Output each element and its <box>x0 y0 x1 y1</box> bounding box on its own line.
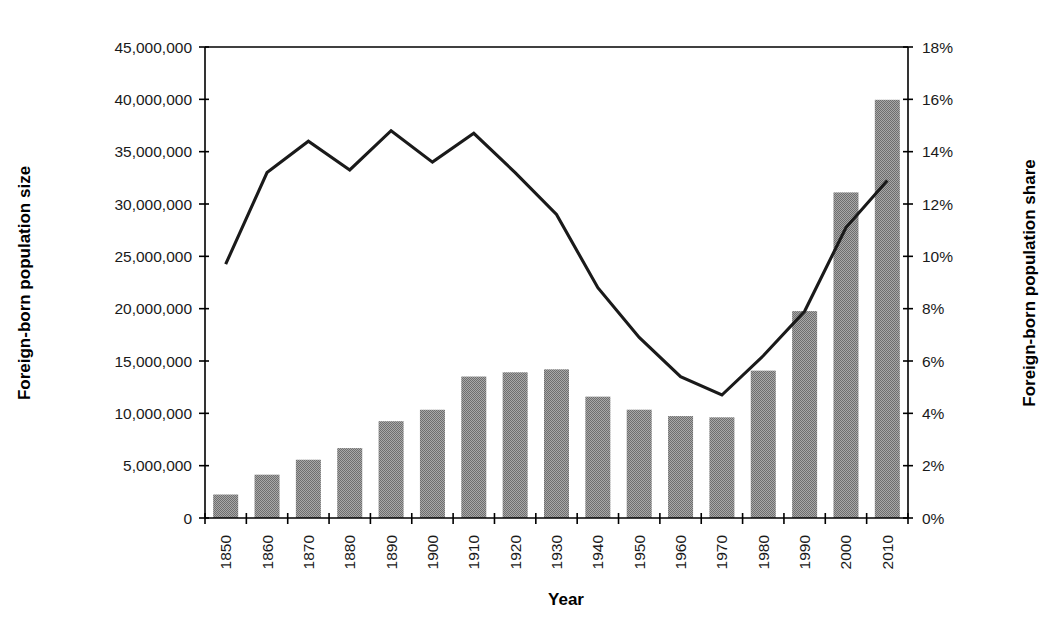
left-tick-label: 35,000,000 <box>114 143 192 160</box>
share-line <box>226 131 888 395</box>
right-tick-label: 4% <box>922 405 945 422</box>
bar-1980 <box>751 371 776 518</box>
right-tick-label: 14% <box>922 143 953 160</box>
bar-1880 <box>337 448 362 518</box>
bar-1920 <box>503 372 528 518</box>
x-axis-tick-labels: 1850186018701880189019001910192019301940… <box>217 535 896 570</box>
x-tick-label-2010: 2010 <box>879 535 896 570</box>
left-tick-label: 30,000,000 <box>114 196 192 213</box>
x-tick-label-2000: 2000 <box>837 535 854 570</box>
x-tick-label-1990: 1990 <box>796 535 813 570</box>
bar-1970 <box>709 417 734 518</box>
x-tick-label-1920: 1920 <box>507 535 524 570</box>
line-series <box>226 131 888 395</box>
bar-1850 <box>213 495 238 518</box>
x-tick-label-1910: 1910 <box>465 535 482 570</box>
right-tick-label: 16% <box>922 91 953 108</box>
left-tick-label: 20,000,000 <box>114 300 192 317</box>
right-tick-label: 18% <box>922 39 953 56</box>
bar-2010 <box>875 100 900 518</box>
x-tick-label-1960: 1960 <box>672 535 689 570</box>
right-tick-label: 8% <box>922 300 945 317</box>
left-tick-label: 0 <box>183 510 192 527</box>
right-tick-label: 10% <box>922 248 953 265</box>
x-tick-label-1880: 1880 <box>341 535 358 570</box>
x-tick-label-1850: 1850 <box>217 535 234 570</box>
left-axis-ticks: 05,000,00010,000,00015,000,00020,000,000… <box>114 39 209 527</box>
bar-1890 <box>379 421 404 518</box>
bar-1990 <box>792 311 817 518</box>
bar-2000 <box>833 192 858 518</box>
left-tick-label: 25,000,000 <box>114 248 192 265</box>
bar-1910 <box>461 377 486 518</box>
bar-1940 <box>585 397 610 518</box>
dual-axis-chart: 05,000,00010,000,00015,000,00020,000,000… <box>0 0 1061 626</box>
left-tick-label: 40,000,000 <box>114 91 192 108</box>
bar-1860 <box>255 475 280 518</box>
x-tick-label-1970: 1970 <box>713 535 730 570</box>
bar-1900 <box>420 410 445 518</box>
left-tick-label: 10,000,000 <box>114 405 192 422</box>
bar-1950 <box>627 410 652 518</box>
y-axis-title: Foreign-born population size <box>15 166 34 400</box>
chart-container: 05,000,00010,000,00015,000,00020,000,000… <box>0 0 1061 626</box>
left-tick-label: 45,000,000 <box>114 39 192 56</box>
bar-series <box>213 100 900 518</box>
right-tick-label: 6% <box>922 353 945 370</box>
x-tick-label-1890: 1890 <box>383 535 400 570</box>
right-tick-label: 0% <box>922 510 945 527</box>
y2-axis-title: Foreign-born population share <box>1020 159 1039 406</box>
bar-1930 <box>544 369 569 518</box>
x-tick-label-1870: 1870 <box>300 535 317 570</box>
x-tick-label-1860: 1860 <box>259 535 276 570</box>
x-tick-label-1930: 1930 <box>548 535 565 570</box>
bar-1870 <box>296 460 321 518</box>
x-tick-label-1900: 1900 <box>424 535 441 570</box>
x-tick-label-1940: 1940 <box>589 535 606 570</box>
right-axis-ticks: 0%2%4%6%8%10%12%14%16%18% <box>903 39 953 527</box>
left-tick-label: 5,000,000 <box>123 457 192 474</box>
left-tick-label: 15,000,000 <box>114 353 192 370</box>
x-tick-label-1950: 1950 <box>631 535 648 570</box>
x-axis-title: Year <box>548 590 584 609</box>
right-tick-label: 2% <box>922 457 945 474</box>
bar-1960 <box>668 416 693 518</box>
right-tick-label: 12% <box>922 196 953 213</box>
x-tick-label-1980: 1980 <box>755 535 772 570</box>
